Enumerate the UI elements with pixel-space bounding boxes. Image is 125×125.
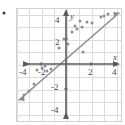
data-point — [50, 67, 53, 70]
data-point — [107, 13, 110, 16]
y-tick-label-neg4: -4 — [51, 106, 59, 115]
scatter-plot-figure: -4 -2 2 4 4 2 -2 -4 y x — [0, 0, 125, 125]
data-point — [67, 43, 70, 46]
y-tick-label-4: 4 — [55, 16, 60, 25]
x-tick-label-2: 2 — [88, 68, 93, 77]
data-point — [73, 24, 76, 27]
x-axis-label: x — [113, 53, 117, 62]
x-tick-label-neg4: -4 — [19, 68, 27, 77]
y-tick-label-neg2: -2 — [51, 83, 59, 92]
data-point — [103, 14, 106, 17]
x-tick-label-4: 4 — [112, 68, 117, 77]
data-point — [32, 82, 35, 85]
x-tick-label-neg2: -2 — [38, 68, 46, 77]
data-point — [46, 70, 49, 73]
data-point — [86, 20, 89, 23]
data-point — [78, 19, 81, 22]
data-point — [81, 25, 84, 28]
data-point — [99, 15, 102, 18]
data-point — [91, 22, 94, 25]
data-point — [62, 38, 65, 41]
data-point — [76, 28, 79, 31]
data-points-layer — [0, 0, 125, 125]
data-point — [82, 50, 85, 53]
y-tick-label-2: 2 — [55, 38, 60, 47]
y-axis-label: y — [70, 12, 74, 21]
data-point — [71, 30, 74, 33]
data-point — [27, 90, 30, 93]
data-point — [22, 94, 25, 97]
